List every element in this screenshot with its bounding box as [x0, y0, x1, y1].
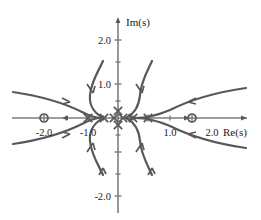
root-locus-canvas: -2.0 -1.0 1.0 2.0 2.0 1.0 -2.0 Re(s) Im(… [0, 0, 261, 220]
root-locus-figure: -2.0 -1.0 1.0 2.0 2.0 1.0 -2.0 Re(s) Im(… [0, 0, 261, 220]
x-tick-label-neg1: -1.0 [80, 127, 97, 138]
y-tick-label-neg2: -2.0 [94, 191, 111, 202]
x-tick-label-neg2: -2.0 [36, 127, 53, 138]
real-axis-arrowhead [241, 116, 247, 121]
x-tick-label-pos1: 1.0 [163, 127, 176, 138]
direction-arrow-curve-ul [62, 98, 70, 104]
y-axis-label: Im(s) [126, 16, 150, 29]
direction-arrow-left-outer [62, 116, 68, 121]
x-tick-label-pos2: 2.0 [205, 127, 218, 138]
x-axis-label: Re(s) [223, 126, 247, 139]
y-tick-label-pos2: 2.0 [98, 35, 111, 46]
direction-arrow-curve-ll [62, 132, 70, 138]
imag-axis-arrowhead [116, 17, 121, 23]
locus-branch-upper-left [13, 92, 101, 118]
y-tick-label-pos1: 1.0 [98, 79, 111, 90]
